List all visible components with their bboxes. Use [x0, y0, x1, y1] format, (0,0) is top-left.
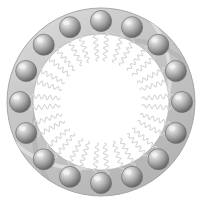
lipid-head-group	[16, 61, 38, 82]
head-group-sphere	[60, 17, 81, 38]
head-group-highlight	[19, 126, 25, 131]
head-group-sphere	[16, 123, 37, 144]
lipid-head-group	[33, 34, 55, 55]
head-group-sphere	[165, 61, 186, 82]
head-group-highlight	[152, 38, 158, 43]
head-group-sphere	[16, 61, 37, 82]
liposome-svg-canvas	[0, 0, 203, 204]
head-group-sphere	[91, 11, 112, 32]
head-group-highlight	[94, 176, 100, 181]
head-group-highlight	[169, 64, 175, 69]
lipid-head-group	[148, 149, 170, 170]
lipid-head-group	[165, 123, 187, 144]
head-group-highlight	[94, 14, 100, 19]
head-group-sphere	[91, 173, 112, 194]
head-group-sphere	[60, 166, 81, 187]
lipid-head-group	[10, 92, 32, 113]
lipid-head-group	[60, 166, 82, 187]
head-group-highlight	[63, 170, 69, 175]
head-group-highlight	[13, 95, 19, 100]
head-group-sphere	[33, 149, 54, 170]
head-group-sphere	[122, 166, 143, 187]
head-group-sphere	[33, 34, 54, 55]
head-group-highlight	[37, 153, 43, 158]
head-group-sphere	[165, 123, 186, 144]
aqueous-core	[71, 72, 131, 132]
head-group-highlight	[37, 38, 43, 43]
head-group-highlight	[125, 20, 131, 25]
lipid-head-group	[122, 17, 144, 38]
head-group-highlight	[19, 64, 25, 69]
head-group-sphere	[148, 34, 169, 55]
lipid-head-group	[172, 92, 194, 113]
head-group-highlight	[125, 170, 131, 175]
liposome-diagram	[0, 0, 203, 204]
lipid-head-group	[91, 11, 113, 32]
lipid-head-group	[60, 17, 82, 38]
head-group-sphere	[10, 92, 31, 113]
head-group-highlight	[152, 153, 158, 158]
head-group-highlight	[175, 95, 181, 100]
lipid-head-group	[122, 166, 144, 187]
lipid-head-group	[165, 61, 187, 82]
head-group-highlight	[169, 126, 175, 131]
head-group-sphere	[172, 92, 193, 113]
head-group-highlight	[63, 20, 69, 25]
head-group-sphere	[148, 149, 169, 170]
lipid-head-group	[148, 34, 170, 55]
head-group-sphere	[122, 17, 143, 38]
lipid-head-group	[91, 173, 113, 194]
lipid-head-group	[33, 149, 55, 170]
lipid-head-group	[16, 123, 38, 144]
